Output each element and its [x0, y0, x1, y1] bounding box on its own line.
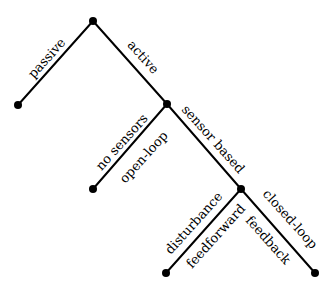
node-sensor-based [237, 185, 245, 193]
node-root [89, 17, 97, 25]
node-active [163, 100, 171, 108]
node-open-loop [89, 185, 97, 193]
edge-passive [18, 21, 93, 105]
control-tree-diagram: passive active no sensors open-loop sens… [0, 0, 336, 293]
node-feedback [311, 269, 319, 277]
node-feedforward [162, 269, 170, 277]
label-active: active [125, 37, 163, 77]
node-passive [14, 101, 22, 109]
label-sensor-based: sensor based [179, 102, 248, 176]
